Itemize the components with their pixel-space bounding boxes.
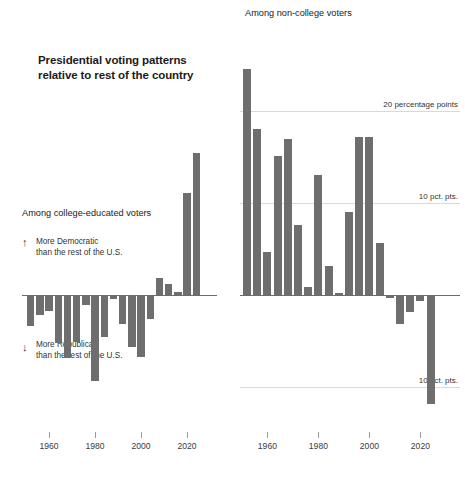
bar: [355, 137, 363, 295]
bar: [27, 295, 34, 326]
x-axis-tick-mark: [49, 432, 50, 438]
bar: [165, 284, 172, 295]
x-axis-college: 1960198020002020: [22, 432, 217, 462]
bar: [416, 295, 424, 301]
bar: [101, 295, 108, 337]
bar: [55, 295, 62, 343]
bar: [274, 156, 282, 295]
bar: [406, 295, 414, 312]
x-axis-tick-mark: [420, 432, 421, 438]
chart-panel-non-college: 20 percentage points10 pct. pts.10 pct. …: [240, 30, 460, 420]
gridline: [240, 111, 460, 112]
bar: [427, 295, 435, 404]
bar: [137, 295, 144, 357]
bar: [365, 137, 373, 295]
bar: [345, 212, 353, 295]
bar: [386, 295, 394, 298]
bar: [110, 295, 117, 299]
x-axis-tick-label: 2000: [121, 441, 161, 451]
bar: [64, 295, 71, 358]
chart-panel-college: [22, 60, 217, 420]
x-axis-tick-label: 2000: [349, 441, 389, 451]
bar: [128, 295, 135, 347]
bar: [396, 295, 404, 324]
bar: [325, 266, 333, 295]
x-axis-non-college: 1960198020002020: [240, 432, 460, 462]
plot-area-non-college: 20 percentage points10 pct. pts.10 pct. …: [240, 30, 460, 420]
bar: [183, 193, 190, 295]
bar: [193, 153, 200, 295]
bar: [45, 295, 52, 311]
bar: [263, 252, 271, 295]
bar: [243, 69, 251, 295]
plot-area-college: [22, 60, 217, 420]
bar: [304, 287, 312, 295]
bar: [284, 139, 292, 295]
x-axis-tick-mark: [318, 432, 319, 438]
bar: [91, 295, 98, 381]
bar: [119, 295, 126, 324]
x-axis-tick-label: 2020: [400, 441, 440, 451]
bar: [156, 278, 163, 295]
x-axis-tick-mark: [267, 432, 268, 438]
x-axis-tick-mark: [369, 432, 370, 438]
bar: [174, 292, 181, 295]
bar: [314, 175, 322, 295]
x-axis-tick-mark: [187, 432, 188, 438]
bar: [82, 295, 89, 305]
bar: [335, 293, 343, 295]
bar: [376, 243, 384, 295]
x-axis-tick-mark: [95, 432, 96, 438]
x-axis-tick-label: 1980: [298, 441, 338, 451]
bar: [73, 295, 80, 342]
x-axis-tick-label: 2020: [167, 441, 207, 451]
x-axis-tick-label: 1980: [75, 441, 115, 451]
x-axis-tick-label: 1960: [247, 441, 287, 451]
panel-title-non-college: Among non-college voters: [245, 8, 445, 18]
bar: [36, 295, 43, 315]
x-axis-tick-label: 1960: [29, 441, 69, 451]
bar: [294, 225, 302, 295]
x-axis-tick-mark: [141, 432, 142, 438]
chart-figure: Presidential voting patterns relative to…: [0, 0, 465, 481]
bar: [147, 295, 154, 319]
gridline-label: 20 percentage points: [298, 100, 458, 109]
bar: [253, 129, 261, 295]
